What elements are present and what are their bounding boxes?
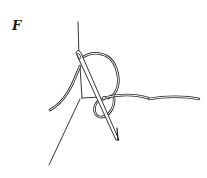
needle-thread-illustration [0, 0, 207, 178]
left-thread [50, 66, 80, 110]
figure-canvas: F [0, 0, 207, 178]
fabric-fold-vertical-line [80, 66, 82, 98]
fabric-lines [49, 22, 100, 165]
knot-point [102, 96, 105, 99]
right-thread [102, 95, 199, 100]
large-thread-loop [80, 53, 118, 98]
